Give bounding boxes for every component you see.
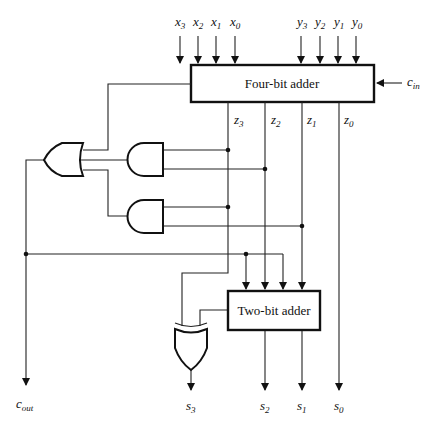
output-labels: cout s3 s2 s1 s0 xyxy=(16,396,344,415)
svg-text:z1: z1 xyxy=(306,112,317,129)
z-labels: z3 z2 z1 z0 xyxy=(233,112,354,129)
svg-text:y0: y0 xyxy=(350,14,363,31)
svg-text:z0: z0 xyxy=(343,112,354,129)
svg-text:s1: s1 xyxy=(297,398,307,415)
svg-text:Four-bit adder: Four-bit adder xyxy=(245,76,320,91)
svg-text:s3: s3 xyxy=(186,398,196,415)
input-arrows xyxy=(180,36,356,63)
adder-circuit-diagram: x3 x2 x1 x0 y3 y2 y1 y0 Four-bit adder c… xyxy=(0,0,439,434)
input-labels-x: x3 x2 x1 x0 xyxy=(174,14,241,31)
svg-text:y2: y2 xyxy=(313,14,326,31)
or-gate xyxy=(44,143,83,176)
input-labels-y: y3 y2 y1 y0 xyxy=(295,14,363,31)
svg-text:cout: cout xyxy=(16,396,34,413)
svg-text:x3: x3 xyxy=(174,14,186,31)
xor-gate xyxy=(175,323,207,370)
svg-text:cin: cin xyxy=(407,74,420,91)
two-bit-adder-block: Two-bit adder xyxy=(228,291,320,330)
svg-text:Two-bit adder: Two-bit adder xyxy=(237,303,311,318)
svg-text:z2: z2 xyxy=(270,112,281,129)
svg-text:s2: s2 xyxy=(260,398,270,415)
carry-in: cin xyxy=(377,74,420,91)
svg-text:x1: x1 xyxy=(210,14,221,31)
svg-text:x2: x2 xyxy=(192,14,204,31)
svg-text:s0: s0 xyxy=(334,398,344,415)
and-gate-2 xyxy=(128,200,163,233)
and-gate-1 xyxy=(128,143,163,176)
svg-text:x0: x0 xyxy=(229,14,241,31)
four-bit-adder-block: Four-bit adder xyxy=(191,65,374,102)
svg-text:y1: y1 xyxy=(332,14,344,31)
svg-text:y3: y3 xyxy=(295,14,308,31)
svg-text:z3: z3 xyxy=(233,112,244,129)
